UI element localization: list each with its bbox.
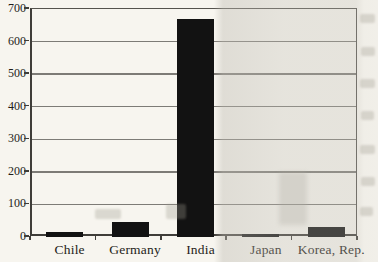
x-axis-tick-mark xyxy=(95,236,97,240)
bleedthrough-mark xyxy=(360,145,375,154)
plot-area xyxy=(30,8,357,236)
y-axis-tick-label-0: 0 xyxy=(0,229,26,243)
y-axis-tick-label-700: 700 xyxy=(0,1,26,15)
y-axis-tick-mark xyxy=(24,235,29,237)
bleedthrough-mark xyxy=(361,47,375,56)
y-axis-tick-label-600: 600 xyxy=(0,34,26,48)
y-axis-tick-mark xyxy=(24,105,29,107)
x-axis-tick-mark xyxy=(291,236,293,240)
bleedthrough-mark xyxy=(360,14,375,23)
bar-chile xyxy=(46,232,83,237)
bleedthrough-mark xyxy=(361,111,374,120)
y-axis-tick-label-500: 500 xyxy=(0,66,26,80)
x-axis-tick-mark xyxy=(225,236,227,240)
y-axis-tick-mark xyxy=(24,72,29,74)
bar-india xyxy=(177,19,214,237)
x-axis-tick-mark xyxy=(29,236,31,240)
y-axis-tick-label-400: 400 xyxy=(0,99,26,113)
y-axis-tick-label-200: 200 xyxy=(0,164,26,178)
bleedthrough-mark xyxy=(361,177,375,186)
x-axis-tick-mark xyxy=(160,236,162,240)
y-axis-tick-mark xyxy=(24,138,29,140)
bar-korea-rep xyxy=(308,227,345,237)
y-axis-tick-label-100: 100 xyxy=(0,196,26,210)
y-axis-tick-mark xyxy=(24,40,29,42)
bleedthrough-mark xyxy=(360,207,373,216)
y-axis-tick-label-300: 300 xyxy=(0,131,26,145)
bar-germany xyxy=(112,222,149,237)
bleedthrough-mark xyxy=(360,79,375,88)
x-axis-tick-mark xyxy=(356,236,358,240)
y-axis-tick-mark xyxy=(24,203,29,205)
y-axis-tick-mark xyxy=(24,170,29,172)
y-axis-tick-mark xyxy=(24,7,29,9)
scanned-book-page: 0100200300400500600700 ChileGermanyIndia… xyxy=(0,0,378,262)
bar-japan xyxy=(242,234,279,237)
x-axis-category-label: Korea, Rep. xyxy=(286,242,376,258)
